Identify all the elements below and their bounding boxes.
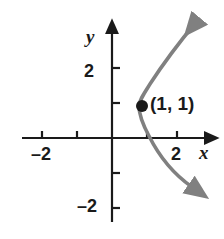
coordinate-plane-svg — [0, 0, 224, 239]
x-axis — [22, 131, 206, 138]
point-marker-1-1 — [136, 100, 148, 112]
y-tick-label-2: 2 — [84, 62, 94, 80]
x-tick-label-2: 2 — [171, 145, 181, 163]
y-axis — [112, 32, 120, 222]
graph-figure: y x 2 –2 –2 2 (1, 1) — [0, 0, 224, 239]
x-axis-label: x — [199, 143, 209, 162]
y-tick-label-neg2: –2 — [77, 197, 97, 215]
x-tick-label-neg2: –2 — [31, 145, 51, 163]
point-coordinate-label: (1, 1) — [150, 94, 194, 113]
y-axis-label: y — [86, 27, 94, 46]
